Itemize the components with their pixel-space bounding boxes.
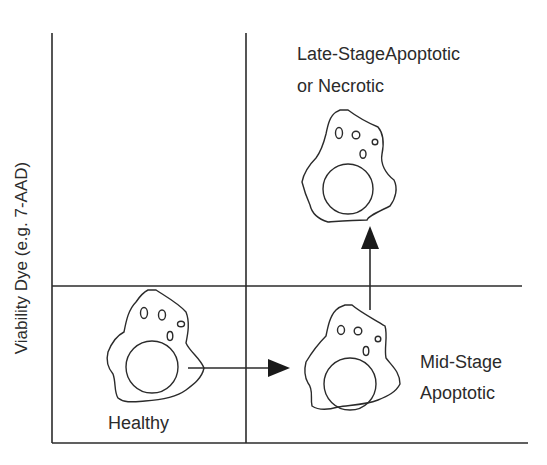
- healthy-label: Healthy: [108, 410, 169, 437]
- late-stage-label: Late-StageApoptotic or Necrotic: [297, 41, 460, 100]
- y-axis-label: Viability Dye (e.g. 7-AAD): [12, 162, 32, 354]
- mid-stage-label-line2: Apoptotic: [420, 380, 502, 407]
- arrow-right-icon: [188, 359, 290, 377]
- healthy-cell-icon: [107, 290, 204, 402]
- late-stage-label-line1: Late-StageApoptotic: [297, 41, 460, 68]
- late-stage-label-line2: or Necrotic: [297, 73, 460, 100]
- late-stage-apoptotic-cell-icon: [302, 110, 396, 222]
- mid-stage-apoptotic-cell-icon: [305, 305, 400, 410]
- mid-stage-label-line1: Mid-Stage: [420, 349, 502, 376]
- mid-stage-label: Mid-Stage Apoptotic: [420, 317, 502, 407]
- arrow-up-icon: [361, 226, 379, 310]
